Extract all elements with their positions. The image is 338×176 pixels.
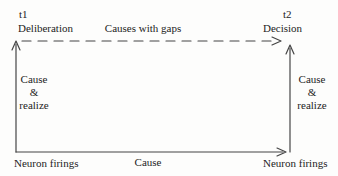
deliberation-decision-diagram: t1 t2 Deliberation Causes with gaps Deci…: [0, 0, 338, 176]
left-edge-line1: Cause: [14, 73, 54, 86]
node-deliberation: Deliberation: [18, 22, 73, 35]
causes-with-gaps-arrowhead-right: [272, 37, 281, 45]
right-edge-line2: &: [292, 86, 332, 99]
edge-label-causes-with-gaps: Causes with gaps: [98, 22, 188, 35]
time-label-t1: t1: [19, 8, 28, 21]
edge-label-left-cause-realize: Cause & realize: [14, 73, 54, 112]
left-edge-line2: &: [14, 86, 54, 99]
right-edge-line3: realize: [292, 99, 332, 112]
node-neuron-firings-left: Neuron firings: [14, 157, 78, 170]
node-neuron-firings-right: Neuron firings: [263, 157, 327, 170]
time-label-t2: t2: [283, 8, 292, 21]
edge-label-bottom-cause: Cause: [120, 156, 176, 169]
right-edge-line1: Cause: [292, 73, 332, 86]
node-decision: Decision: [263, 22, 302, 35]
edge-label-right-cause-realize: Cause & realize: [292, 73, 332, 112]
left-edge-line3: realize: [14, 99, 54, 112]
